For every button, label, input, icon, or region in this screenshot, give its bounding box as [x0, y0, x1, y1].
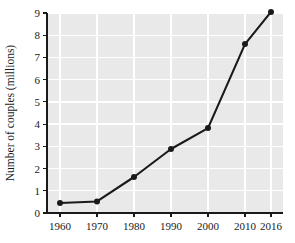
data-point-marker: [94, 198, 100, 204]
y-tick-label: 7: [35, 51, 41, 63]
x-tick-label: 2016: [260, 220, 283, 232]
y-tick-label: 0: [35, 207, 41, 219]
data-point-marker: [242, 41, 248, 47]
data-point-marker: [268, 9, 274, 15]
x-tick-label: 1980: [123, 220, 146, 232]
x-tick-label: 1960: [49, 220, 72, 232]
y-tick-label: 2: [35, 163, 41, 175]
y-tick-label: 4: [35, 118, 41, 130]
chart-figure: 0123456789 1960197019801990200020102016 …: [0, 0, 295, 243]
y-tick-label: 6: [35, 74, 41, 86]
line-chart: 0123456789 1960197019801990200020102016 …: [0, 0, 295, 243]
y-tick-label: 8: [35, 29, 41, 41]
y-tick-label: 5: [35, 96, 41, 108]
x-tick-label: 2010: [234, 220, 257, 232]
y-axis-title: Number of couples (millions): [4, 45, 17, 182]
data-point-marker: [168, 146, 174, 152]
data-point-marker: [131, 174, 137, 180]
y-tick-label: 9: [35, 7, 41, 19]
y-tick-label: 1: [35, 185, 41, 197]
data-point-marker: [57, 200, 63, 206]
data-point-marker: [205, 125, 211, 131]
x-tick-label: 1990: [160, 220, 183, 232]
x-tick-label: 2000: [197, 220, 220, 232]
x-tick-label: 1970: [86, 220, 109, 232]
y-tick-label: 3: [35, 140, 41, 152]
